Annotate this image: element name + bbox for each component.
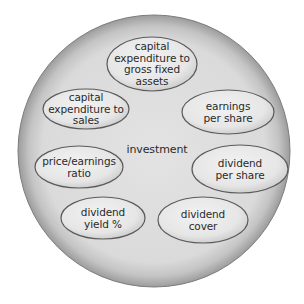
node-label-price-earnings-ratio: price/earningsratio	[42, 156, 116, 179]
node-label-line: capital	[114, 41, 190, 53]
investment-ratios-diagram: investment capitalexpenditure togross fi…	[0, 0, 304, 304]
node-label-dividend-per-share: dividendper share	[216, 158, 265, 181]
node-label-line: per share	[216, 169, 265, 181]
node-label-dividend-yield: dividendyield %	[81, 207, 125, 230]
node-label-line: price/earnings	[42, 156, 116, 168]
node-label-line: yield %	[81, 218, 125, 230]
node-label-dividend-cover: dividendcover	[181, 209, 225, 232]
node-label-line: ratio	[42, 167, 116, 179]
node-label-line: assets	[114, 76, 190, 88]
node-label-line: sales	[48, 115, 124, 127]
node-label-capex-gross-fixed-assets: capitalexpenditure togross fixedassets	[114, 41, 190, 87]
node-label-line: per share	[204, 112, 253, 124]
node-label-earnings-per-share: earningsper share	[204, 101, 253, 124]
node-label-line: dividend	[216, 158, 265, 170]
node-label-line: earnings	[204, 101, 253, 113]
node-label-line: dividend	[181, 209, 225, 221]
node-label-capex-sales: capitalexpenditure tosales	[48, 92, 124, 127]
node-label-line: dividend	[81, 207, 125, 219]
node-label-line: gross fixed	[114, 64, 190, 76]
center-label-investment: investment	[126, 144, 187, 156]
node-label-line: cover	[181, 220, 225, 232]
node-label-line: capital	[48, 92, 124, 104]
